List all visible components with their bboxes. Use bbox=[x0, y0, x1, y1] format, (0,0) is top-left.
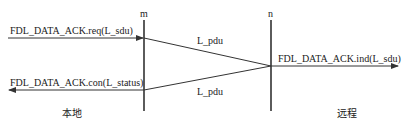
pdu-return-label: L_pdu bbox=[197, 87, 223, 97]
side-label-local: 本地 bbox=[62, 109, 82, 119]
sequence-diagram: m n FDL_DATA_ACK.req(L_sdu) L_pdu FDL_DA… bbox=[0, 0, 406, 136]
side-label-remote: 远程 bbox=[337, 109, 357, 119]
ind-label: FDL_DATA_ACK.ind(L_sdu) bbox=[278, 54, 401, 64]
node-label-m: m bbox=[140, 9, 148, 19]
req-label: FDL_DATA_ACK.req(L_sdu) bbox=[10, 26, 133, 36]
con-label: FDL_DATA_ACK.con(L_status) bbox=[10, 78, 143, 88]
pdu-forward-label: L_pdu bbox=[197, 36, 223, 46]
node-label-n: n bbox=[268, 9, 273, 19]
